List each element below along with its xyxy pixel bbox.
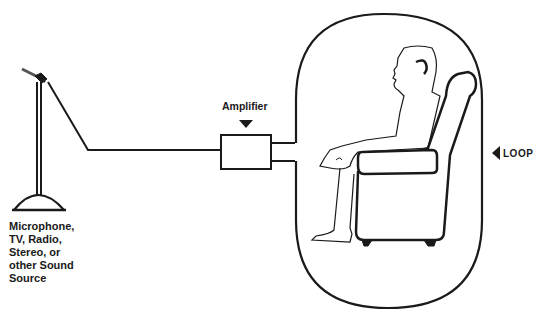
- microphone-stand-icon: [12, 69, 66, 210]
- amplifier-box: [221, 135, 271, 169]
- sound-source-label-line-2: TV, Radio,: [9, 233, 109, 246]
- amplifier-arrow-icon: [239, 120, 253, 128]
- source-wire: [48, 82, 221, 150]
- loop-arrow-icon: [492, 146, 500, 160]
- sound-source-label-line-4: other Sound: [9, 259, 109, 272]
- loop-label: LOOP: [503, 147, 533, 160]
- sound-source-label-line-1: Microphone,: [9, 220, 109, 233]
- sound-source-label-line-5: Source: [9, 272, 109, 285]
- sound-source-label-line-3: Stereo, or: [9, 246, 109, 259]
- sound-source-label: Microphone, TV, Radio, Stereo, or other …: [9, 220, 109, 285]
- amplifier-label: Amplifier: [222, 100, 268, 113]
- armchair-icon: [356, 72, 476, 246]
